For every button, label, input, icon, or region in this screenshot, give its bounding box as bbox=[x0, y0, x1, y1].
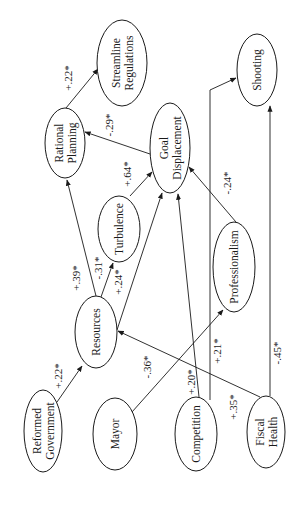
node-competition: Competition bbox=[175, 397, 217, 471]
node-label: Health bbox=[267, 416, 279, 447]
node-label: Planning bbox=[66, 122, 79, 163]
edge-coefficient-label: +.39* bbox=[70, 265, 82, 290]
edge-coefficient-label: -.31* bbox=[92, 257, 104, 280]
edge-coefficient-label: +.24* bbox=[112, 269, 124, 294]
edge-coefficient-label: -.36* bbox=[141, 356, 153, 379]
node-label: Goal bbox=[158, 137, 170, 159]
edge-coefficient-label: +.21* bbox=[211, 338, 223, 363]
node-professionalism: Professionalism bbox=[213, 222, 255, 312]
node-label: Reformed bbox=[31, 408, 43, 454]
node-label: Resources bbox=[90, 308, 102, 356]
node-label: Professionalism bbox=[228, 230, 240, 304]
edge-coefficient-label: +.64* bbox=[121, 161, 133, 186]
node-reformed-government: ReformedGovernment bbox=[24, 390, 62, 472]
node-shooting: Shooting bbox=[237, 34, 277, 106]
node-label: Mayor bbox=[109, 419, 122, 450]
node-label: Regulations bbox=[123, 35, 136, 90]
node-label: Shooting bbox=[251, 49, 264, 91]
node-fiscal-health: FiscalHealth bbox=[247, 396, 285, 468]
node-turbulence: Turbulence bbox=[98, 196, 140, 262]
node-label: Fiscal bbox=[254, 418, 266, 445]
path-diagram: ReformedGovernmentMayorCompetitionFiscal… bbox=[0, 0, 295, 513]
edge-turbulence-to-goal-displacement bbox=[130, 172, 152, 196]
edge-coefficient-label: +.35* bbox=[227, 394, 239, 419]
edge-coefficient-label: -.45* bbox=[271, 342, 283, 365]
node-rational-planning: RationalPlanning bbox=[45, 108, 85, 178]
edge-coefficient-label: +.22* bbox=[62, 65, 74, 90]
node-goal-displacement: GoalDisplacement bbox=[150, 103, 190, 193]
edge-goal-displacement-to-rational-planning bbox=[85, 132, 150, 154]
node-mayor: Mayor bbox=[93, 398, 137, 470]
edge-coefficient-label: +.22* bbox=[52, 363, 64, 388]
edge-coefficient-label: -.29* bbox=[103, 114, 115, 137]
edge-coefficient-label: -.24* bbox=[221, 172, 233, 195]
node-label: Turbulence bbox=[113, 203, 125, 255]
node-label: Rational bbox=[53, 124, 65, 163]
edge-coefficient-label: +.20* bbox=[185, 369, 197, 394]
node-label: Competition bbox=[190, 405, 203, 463]
node-resources: Resources bbox=[75, 296, 117, 368]
node-label: Government bbox=[44, 401, 56, 459]
node-streamline-regulations: StreamlineRegulations bbox=[97, 20, 147, 106]
node-label: Streamline bbox=[110, 38, 122, 88]
edge-competition-to-goal-displacement bbox=[178, 194, 199, 397]
node-label: Displacement bbox=[171, 116, 184, 180]
